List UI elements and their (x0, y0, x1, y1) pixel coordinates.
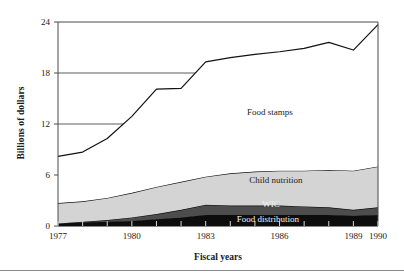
x-tick-label-1989: 1989 (344, 231, 363, 241)
chart-canvas: 06121824197719801983198619891990Food sta… (0, 0, 404, 278)
y-tick-label-12: 12 (41, 119, 50, 129)
x-tick-label-1980: 1980 (123, 231, 142, 241)
series-label-food-distribution: Food distribution (237, 214, 300, 224)
y-axis-title: Billions of dollars (16, 58, 26, 188)
x-tick-label-1977: 1977 (49, 231, 68, 241)
series-label-child-nutrition: Child nutrition (249, 175, 303, 185)
x-tick-label-1986: 1986 (271, 231, 290, 241)
y-tick-label-0: 0 (46, 221, 51, 231)
y-tick-label-18: 18 (41, 68, 51, 78)
x-axis-title: Fiscal years (58, 252, 378, 262)
series-label-wic: WIC (262, 199, 280, 209)
x-tick-label-1983: 1983 (197, 231, 216, 241)
y-tick-label-6: 6 (46, 170, 51, 180)
x-tick-label-1990: 1990 (369, 231, 388, 241)
footer-divider (0, 270, 404, 271)
y-tick-label-24: 24 (41, 17, 51, 27)
chart-figure: Billions of dollars 06121824197719801983… (0, 0, 404, 278)
series-label-food-stamps: Food stamps (247, 107, 293, 117)
